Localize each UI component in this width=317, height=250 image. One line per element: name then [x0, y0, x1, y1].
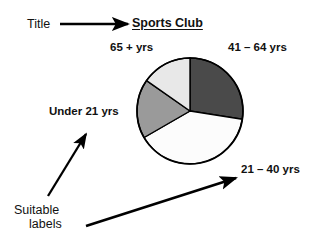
pie-label-under-21-yrs: Under 21 yrs [49, 105, 119, 118]
labels-annotation-arrow-lower [86, 178, 236, 226]
labels-annotation-label: Suitable labels [14, 203, 62, 231]
pie-slice-41-64-yrs[interactable] [190, 58, 243, 119]
diagram-canvas: Title Sports Club 65 + yrs 41 – 64 yrs U… [0, 0, 317, 250]
pie-chart [137, 58, 243, 164]
labels-annotation-arrow-upper [48, 134, 86, 196]
labels-annotation-label-line1: Suitable [14, 203, 62, 217]
pie-label-21-40-yrs: 21 – 40 yrs [241, 163, 300, 176]
chart-title: Sports Club [132, 16, 203, 30]
pie-label-65-plus-yrs: 65 + yrs [110, 41, 153, 54]
labels-annotation-label-line2: labels [14, 217, 62, 231]
title-annotation-label: Title [27, 17, 50, 31]
pie-label-41-64-yrs: 41 – 64 yrs [228, 41, 287, 54]
